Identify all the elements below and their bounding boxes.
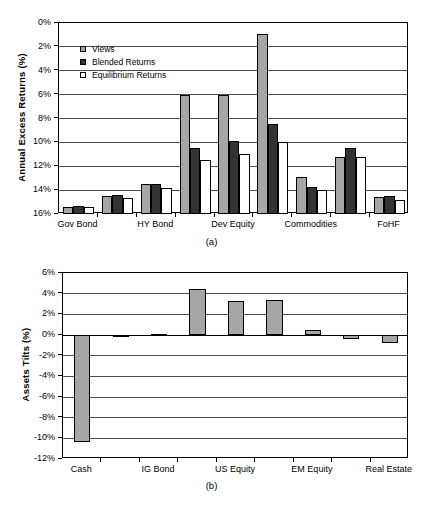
y-axis-tick (54, 165, 58, 166)
legend-item-equilibrium-returns: Equilibrium Returns (80, 68, 166, 81)
bar-equilibrium-returns (278, 142, 288, 214)
y-axis-tick-label: 6% (11, 89, 51, 99)
x-axis-tick (100, 458, 101, 462)
x-axis-tick-label: IG Bond (142, 464, 175, 474)
x-axis-tick (252, 213, 253, 217)
panel-a-legend: ViewsBlended ReturnsEquilibrium Returns (80, 42, 166, 81)
x-axis-tick (370, 458, 371, 462)
gridline (63, 293, 407, 294)
bar-assets-tilts (151, 334, 167, 336)
bar-equilibrium-returns (356, 157, 366, 214)
bar-views (180, 95, 190, 214)
bar-equilibrium-returns (317, 190, 327, 214)
x-axis-tick (291, 213, 292, 217)
bar-blended-returns (384, 196, 394, 214)
y-axis-tick-label: 0% (11, 17, 51, 27)
bar-views (335, 157, 345, 214)
legend-label: Views (92, 44, 115, 54)
x-axis-tick-label: FoHF (377, 219, 400, 229)
y-axis-tick-label: -2% (15, 350, 55, 360)
y-axis-tick (58, 272, 62, 273)
y-axis-tick-label: 8% (11, 113, 51, 123)
bar-blended-returns (268, 124, 278, 214)
y-axis-tick (58, 458, 62, 459)
gridline (63, 438, 407, 439)
legend-swatch-icon (80, 46, 86, 52)
x-axis-tick (175, 213, 176, 217)
x-axis-tick (97, 213, 98, 217)
y-axis-tick-label: -6% (15, 391, 55, 401)
bar-assets-tilts (266, 300, 282, 335)
y-axis-tick (54, 213, 58, 214)
y-axis-tick (58, 313, 62, 314)
bar-views (374, 197, 384, 214)
bar-assets-tilts (113, 335, 129, 337)
x-axis-tick-label: Dev Equity (211, 219, 255, 229)
x-axis-tick (330, 213, 331, 217)
x-axis-tick-label: Cash (71, 464, 92, 474)
y-axis-tick (54, 141, 58, 142)
bar-equilibrium-returns (395, 200, 405, 214)
bar-equilibrium-returns (200, 160, 210, 214)
x-axis-tick-label: EM Equity (291, 464, 332, 474)
x-axis-tick-label: US Equity (215, 464, 255, 474)
y-axis-tick-label: 4% (15, 288, 55, 298)
panel-b-caption: (b) (0, 480, 423, 491)
bar-blended-returns (190, 148, 200, 214)
bar-equilibrium-returns (161, 188, 171, 214)
y-axis-tick (54, 189, 58, 190)
legend-item-views: Views (80, 42, 166, 55)
bar-blended-returns (151, 184, 161, 214)
y-axis-tick (58, 437, 62, 438)
y-axis-tick (54, 69, 58, 70)
panel-a-figure: Annual Excess Returns (%) 16%14%12%10%8%… (0, 0, 423, 258)
gridline (63, 417, 407, 418)
y-axis-tick-label: 6% (15, 267, 55, 277)
y-axis-tick (54, 117, 58, 118)
bar-views (257, 34, 267, 214)
bar-views (296, 177, 306, 214)
y-axis-tick (58, 354, 62, 355)
x-axis-tick (177, 458, 178, 462)
x-axis-tick (139, 458, 140, 462)
bar-assets-tilts (343, 335, 359, 339)
y-axis-tick-label: 10% (11, 136, 51, 146)
x-axis-tick-label: Commodities (285, 219, 338, 229)
y-axis-tick-label: 4% (11, 65, 51, 75)
y-axis-tick-label: -12% (15, 453, 55, 463)
x-axis-tick (136, 213, 137, 217)
bar-views (218, 95, 228, 214)
bar-equilibrium-returns (84, 207, 94, 214)
x-axis-tick-label: Real Estate (366, 464, 413, 474)
panel-a-caption: (a) (0, 236, 423, 247)
x-axis-tick (331, 458, 332, 462)
x-axis-tick-label: HY Bond (137, 219, 173, 229)
y-axis-tick (58, 292, 62, 293)
y-axis-tick-label: -4% (15, 370, 55, 380)
y-axis-tick-label: -10% (15, 432, 55, 442)
y-axis-tick-label: 0% (15, 329, 55, 339)
legend-item-blended-returns: Blended Returns (80, 55, 166, 68)
panel-b-y-axis-title: Assets Tilts (%) (20, 272, 31, 458)
bar-blended-returns (73, 206, 83, 214)
gridline (59, 118, 407, 119)
y-axis-tick-label: 16% (11, 208, 51, 218)
y-axis-tick-label: -8% (15, 412, 55, 422)
panel-b-plot-area (62, 272, 408, 458)
y-axis-tick-label: 2% (15, 308, 55, 318)
bar-assets-tilts (189, 289, 205, 336)
y-axis-tick (58, 416, 62, 417)
y-axis-tick (54, 93, 58, 94)
y-axis-tick (54, 45, 58, 46)
y-axis-tick (58, 334, 62, 335)
bar-blended-returns (345, 148, 355, 214)
bar-assets-tilts (74, 335, 90, 442)
bar-blended-returns (229, 141, 239, 214)
y-axis-tick-label: 12% (11, 160, 51, 170)
y-axis-tick-label: 14% (11, 184, 51, 194)
bar-equilibrium-returns (239, 154, 249, 214)
legend-swatch-icon (80, 72, 86, 78)
bar-views (63, 207, 73, 214)
legend-label: Blended Returns (92, 57, 155, 67)
gridline (59, 94, 407, 95)
